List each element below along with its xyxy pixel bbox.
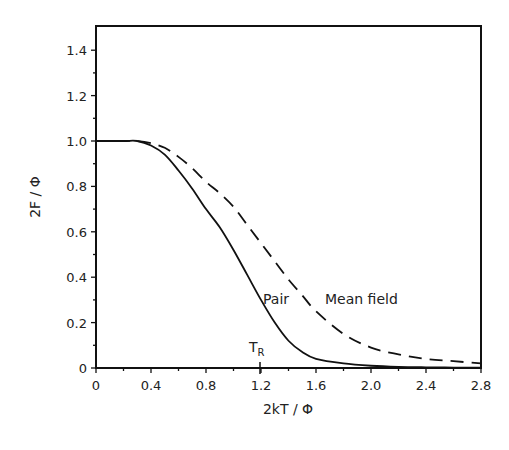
x-axis-ticks: 00.40.81.21.62.02.42.8 bbox=[92, 368, 491, 393]
pair-label: Pair bbox=[263, 291, 289, 307]
tr-label-sub: R bbox=[258, 347, 265, 358]
x-tick-label: 2.8 bbox=[471, 378, 492, 393]
y-axis-title: 2F / Φ bbox=[27, 176, 43, 218]
x-tick-label: 2.0 bbox=[361, 378, 382, 393]
plot-frame bbox=[96, 26, 481, 368]
chart: 00.20.40.60.81.01.21.4 00.40.81.21.62.02… bbox=[0, 0, 509, 450]
y-tick-label: 0.2 bbox=[66, 316, 87, 331]
tr-label-main: T bbox=[248, 339, 258, 355]
y-tick-label: 0.6 bbox=[66, 225, 87, 240]
x-tick-label: 0.8 bbox=[196, 378, 217, 393]
y-tick-label: 0.8 bbox=[66, 179, 87, 194]
y-tick-label: 1.2 bbox=[66, 89, 87, 104]
x-tick-label: 0 bbox=[92, 378, 100, 393]
y-axis-ticks: 00.20.40.60.81.01.21.4 bbox=[66, 43, 96, 376]
y-tick-label: 1.0 bbox=[66, 134, 87, 149]
mean-field-label: Mean field bbox=[325, 291, 398, 307]
x-tick-label: 1.2 bbox=[251, 378, 272, 393]
x-tick-label: 0.4 bbox=[141, 378, 162, 393]
y-tick-label: 0 bbox=[79, 361, 87, 376]
tr-label: TR bbox=[248, 339, 265, 358]
x-axis-title: 2kT / Φ bbox=[263, 401, 313, 417]
y-tick-label: 0.4 bbox=[66, 270, 87, 285]
y-tick-label: 1.4 bbox=[66, 43, 87, 58]
mean-field-curve bbox=[96, 141, 481, 364]
x-tick-label: 2.4 bbox=[416, 378, 437, 393]
pair-curve bbox=[96, 141, 481, 368]
x-tick-label: 1.6 bbox=[306, 378, 327, 393]
